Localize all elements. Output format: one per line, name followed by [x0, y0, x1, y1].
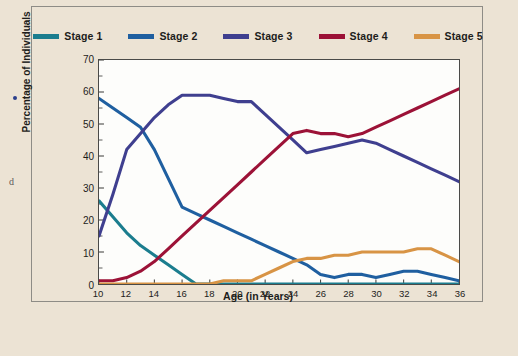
y-tick-20: 20 [72, 215, 94, 226]
legend-label-2: Stage 2 [159, 30, 197, 42]
legend-item-2[interactable]: Stage 2 [128, 30, 197, 42]
chart-lines [99, 60, 459, 284]
legend-item-3[interactable]: Stage 3 [223, 30, 292, 42]
legend-swatch-icon-4 [319, 34, 345, 39]
plot-area [98, 59, 460, 285]
y-tick-40: 40 [72, 150, 94, 161]
x-axis-title: Age (in Years) [32, 290, 484, 302]
y-axis-tick-labels: 010203040506070 [68, 59, 94, 285]
legend-label-3: Stage 3 [254, 30, 292, 42]
legend-label-5: Stage 5 [445, 30, 483, 42]
scan-artifact-dot [13, 96, 17, 100]
y-tick-60: 60 [72, 86, 94, 97]
y-tick-30: 30 [72, 183, 94, 194]
y-tick-50: 50 [72, 118, 94, 129]
legend-swatch-icon-5 [414, 34, 440, 39]
legend-swatch-icon-2 [128, 34, 154, 39]
legend-label-1: Stage 1 [64, 30, 102, 42]
legend-swatch-icon-3 [223, 34, 249, 39]
legend-swatch-icon-1 [33, 34, 59, 39]
legend-item-1[interactable]: Stage 1 [33, 30, 102, 42]
y-axis-title: Percentage of Individuals [21, 11, 32, 132]
chart-figure: Stage 1Stage 2Stage 3Stage 4Stage 5 Perc… [31, 6, 483, 302]
scan-artifact-glyph: d [9, 176, 14, 187]
legend-item-4[interactable]: Stage 4 [319, 30, 388, 42]
series-line-3 [99, 95, 459, 236]
legend-label-4: Stage 4 [350, 30, 388, 42]
legend-item-5[interactable]: Stage 5 [414, 30, 483, 42]
y-tick-70: 70 [72, 54, 94, 65]
chart-legend: Stage 1Stage 2Stage 3Stage 4Stage 5 [32, 26, 484, 46]
y-tick-10: 10 [72, 247, 94, 258]
